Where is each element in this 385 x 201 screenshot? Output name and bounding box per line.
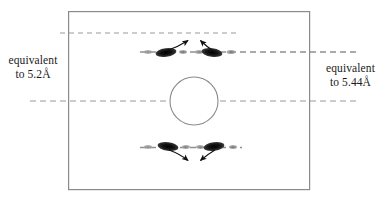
lower-left-reflection [157, 141, 179, 152]
arrow-lower-left [169, 150, 188, 161]
faint-spot-upper-outer-right [227, 50, 236, 54]
figure-root: equivalent to 5.2Å equivalent to 5.44Å [0, 0, 385, 201]
diffraction-figure [0, 0, 385, 201]
annotation-right-line1: equivalent [316, 62, 385, 76]
faint-spot-upper-inner-left [179, 50, 187, 54]
arrow-upper-left [167, 41, 188, 51]
annotation-left-line1: equivalent [0, 54, 66, 68]
faint-spot-lower-inner-left [182, 145, 190, 149]
faint-spot-lower-outer-right [229, 145, 237, 149]
upper-right-reflection [201, 47, 223, 58]
arrow-lower-right [201, 150, 216, 161]
beam-stop-circle [170, 77, 218, 125]
annotation-left-line2: to 5.2Å [0, 68, 66, 82]
annotation-right: equivalent to 5.44Å [316, 62, 385, 89]
faint-spot-upper-outer-left [144, 50, 152, 54]
faint-spot-lower-inner-right [196, 145, 204, 149]
annotation-left: equivalent to 5.2Å [0, 54, 66, 81]
faint-spot-lower-outer-left [144, 145, 152, 149]
annotation-right-line2: to 5.44Å [316, 76, 385, 90]
